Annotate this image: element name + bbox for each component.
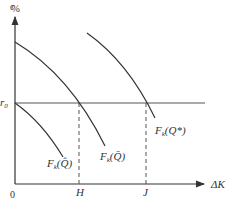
y-axis-label: c% [10,1,20,14]
curve-label-f-q-star: Fk(Q*) [154,124,186,138]
x-axis-label: ΔK [210,178,225,190]
curve-label-f-q-hat: Fk(Q̂) [46,157,72,171]
curve-f-q-bar [15,42,105,146]
origin-label: 0 [10,189,15,200]
diagram-canvas: c% r0 0 H J ΔK Fk(Q̂) Fk(Q̄) Fk(Q*) [0,0,227,208]
curve-f-q-star [87,33,155,118]
curve-f-q-hat [15,103,63,157]
rate-label: r0 [0,96,8,110]
j-label: J [143,186,149,198]
h-label: H [75,186,85,198]
curve-label-f-q-bar: Fk(Q̄) [99,150,125,164]
